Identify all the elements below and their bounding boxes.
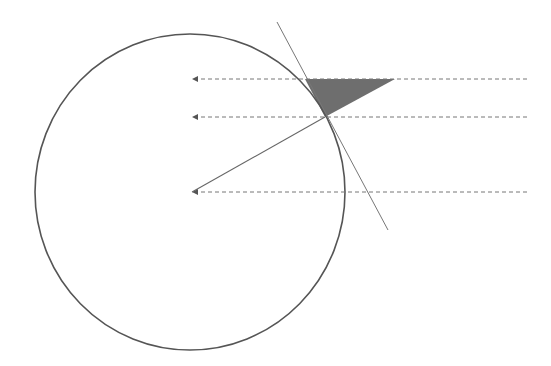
tangent-line [277,22,388,230]
shaded-triangle [305,79,395,117]
arrowhead-icon [192,76,198,82]
circle [35,34,345,350]
circle-ray-diagram [0,0,551,366]
arrowhead-icon [192,114,198,120]
radius-line [192,117,325,192]
